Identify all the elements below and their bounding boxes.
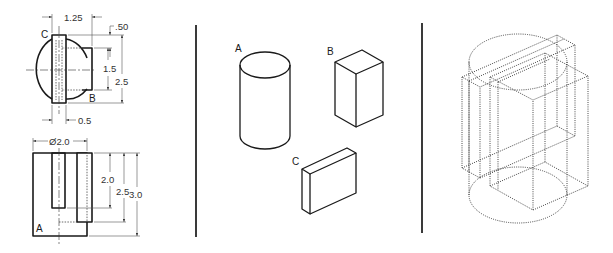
cylinder-top-face [240,52,290,78]
dim-2-0: 2.0 [101,174,114,185]
dim-1-5: 1.5 [103,63,116,74]
dim-1-25: 1.25 [64,12,83,23]
dim-2-5-front: 2.5 [116,186,129,197]
prism-top-face [335,50,383,74]
assembly-plate-inner [469,39,564,172]
front-view: Ø2.0 2.0 2.5 3.0 A [33,136,142,246]
assembly-plate-left [462,77,480,178]
plate-top-face [302,148,356,174]
assembly-plate-edge [557,126,575,136]
part-b-front [77,153,92,222]
assembly-prism-left [490,77,533,210]
label-a: A [36,223,43,234]
dim-0-50: .50 [115,21,128,32]
assembly-plate-back [462,35,557,168]
cylinder-top-outline [36,39,52,99]
assembly-prism-inner [498,59,550,82]
dim-3-0: 3.0 [129,189,142,200]
part-b-top [82,48,92,90]
part-c-front [52,153,65,208]
isometric-parts-panel: A B C [235,43,383,214]
cylinder-bottom-edge [240,136,290,149]
top-view: 1.25 .50 1.5 2.5 0.5 C B [26,12,128,126]
assembly-prism-top [490,53,588,100]
dim-2-5-top: 2.5 [115,76,128,87]
technical-drawing: 1.25 .50 1.5 2.5 0.5 C B [0,0,613,253]
dim-0-5: 0.5 [78,115,91,126]
label-c-iso: C [292,156,299,167]
dim-diameter-2-0: Ø2.0 [49,136,70,147]
assembly-plate-front [480,45,575,178]
label-a-iso: A [235,43,242,54]
part-a-cylinder: A [235,43,290,149]
label-b: B [89,93,96,104]
assembly-cylinder-bottom [469,167,567,223]
orthographic-panel: 1.25 .50 1.5 2.5 0.5 C B [26,12,142,246]
label-c: C [41,29,48,40]
assembly-prism-hidden [490,53,588,186]
assembly-cylinder-top [469,34,567,90]
part-c-plate: C [292,148,356,214]
plate-side-face [302,169,310,214]
assembled-isometric-panel [462,34,588,223]
part-b-prism: B [327,46,383,127]
assembly-prism-right [533,76,588,210]
label-b-iso: B [327,46,334,57]
assembly-plate-top [462,35,575,87]
